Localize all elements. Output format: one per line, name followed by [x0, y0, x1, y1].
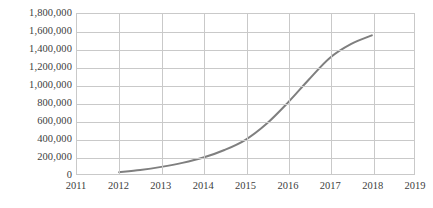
- y-axis-tick-label: 400,000: [0, 133, 72, 144]
- y-axis-tick-label: 1,200,000: [0, 61, 72, 72]
- y-axis-tick-label: 800,000: [0, 97, 72, 108]
- gridline-vertical: [204, 14, 205, 174]
- y-axis-tick-label: 0: [0, 169, 72, 180]
- plot-area: [76, 13, 415, 175]
- gridline-horizontal: [77, 50, 414, 51]
- gridline-vertical: [289, 14, 290, 174]
- gridline-horizontal: [77, 158, 414, 159]
- gridline-horizontal: [77, 86, 414, 87]
- gridline-vertical: [119, 14, 120, 174]
- y-axis-tick-label: 600,000: [0, 115, 72, 126]
- gridline-horizontal: [77, 32, 414, 33]
- gridline-vertical: [162, 14, 163, 174]
- gridline-vertical: [374, 14, 375, 174]
- y-axis-tick-label: 200,000: [0, 151, 72, 162]
- gridline-vertical: [247, 14, 248, 174]
- line-chart: 1,800,0001,600,0001,400,0001,200,0001,00…: [0, 0, 433, 208]
- y-axis: 1,800,0001,600,0001,400,0001,200,0001,00…: [0, 0, 72, 208]
- gridline-horizontal: [77, 68, 414, 69]
- x-axis: 201120122013201420152016201720182019: [0, 180, 433, 202]
- series-line: [77, 14, 414, 174]
- gridline-horizontal: [77, 104, 414, 105]
- gridline-horizontal: [77, 122, 414, 123]
- y-axis-tick-label: 1,400,000: [0, 43, 72, 54]
- gridline-vertical: [331, 14, 332, 174]
- y-axis-tick-label: 1,600,000: [0, 25, 72, 36]
- gridline-horizontal: [77, 140, 414, 141]
- y-axis-tick-label: 1,800,000: [0, 7, 72, 18]
- x-axis-tick-label: 2019: [388, 180, 433, 192]
- y-axis-tick-label: 1,000,000: [0, 79, 72, 90]
